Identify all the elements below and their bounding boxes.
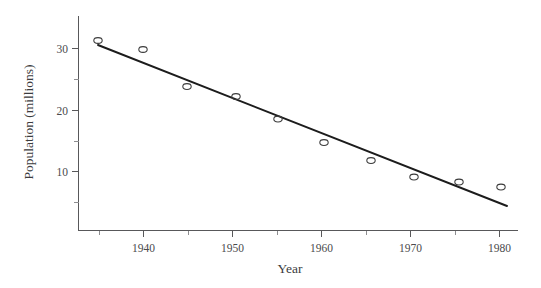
y-tick-label-10: 10: [57, 166, 69, 178]
x-tick-label-1940: 1940: [132, 242, 155, 254]
x-tick-label-1980: 1980: [488, 242, 511, 254]
y-axis-ticks: [72, 49, 79, 203]
data-point: [320, 140, 328, 146]
data-point: [497, 184, 505, 190]
data-point: [94, 38, 102, 44]
x-tick-label-1970: 1970: [399, 242, 422, 254]
x-axis-ticks: [100, 231, 500, 238]
chart-figure: 30 20 10 1940 1950 1960 1970 1980: [0, 0, 541, 288]
y-axis-title: Population (millions): [21, 64, 36, 179]
y-tick-label-30: 30: [57, 43, 69, 55]
data-point: [274, 116, 282, 122]
data-point: [183, 84, 191, 90]
data-point: [455, 179, 463, 185]
scatter-plot-canvas: 30 20 10 1940 1950 1960 1970 1980: [0, 0, 541, 288]
x-tick-label-1960: 1960: [310, 242, 333, 254]
data-point: [139, 47, 147, 53]
data-point: [410, 174, 418, 180]
x-axis-tick-labels: 1940 1950 1960 1970 1980: [132, 242, 511, 254]
data-point: [367, 158, 375, 164]
y-tick-label-20: 20: [57, 105, 69, 117]
y-axis-tick-labels: 30 20 10: [57, 43, 69, 178]
x-tick-label-1950: 1950: [221, 242, 244, 254]
x-axis-title: Year: [278, 261, 303, 276]
linear-trend-line: [98, 45, 507, 206]
data-point-markers: [94, 38, 505, 190]
